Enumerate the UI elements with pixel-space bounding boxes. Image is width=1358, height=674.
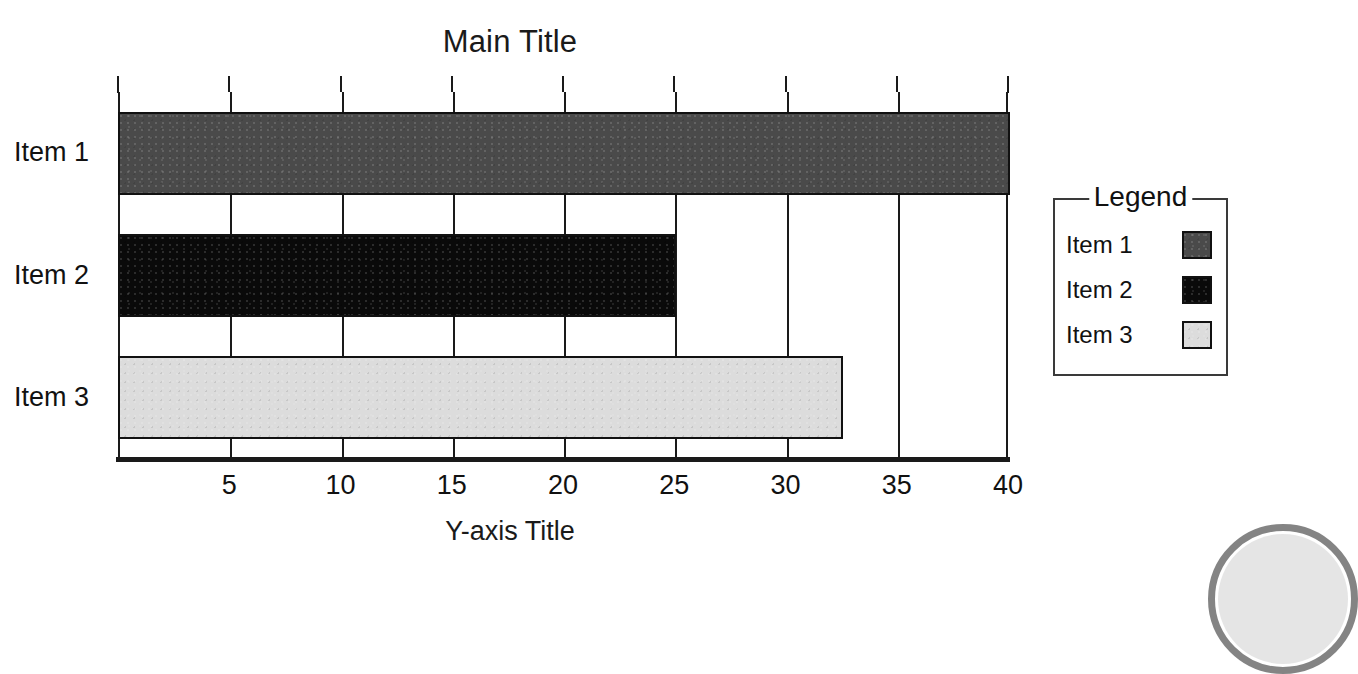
legend-item[interactable]: Item 1 — [1055, 222, 1226, 267]
tick-mark — [340, 76, 342, 93]
x-tick-label: 35 — [862, 470, 932, 501]
chart-title: Main Title — [0, 24, 1020, 60]
tick-mark — [228, 76, 230, 93]
x-axis-line — [116, 457, 1010, 462]
x-tick-label: 40 — [973, 470, 1043, 501]
legend-item-label: Item 3 — [1066, 321, 1133, 349]
legend-item-label: Item 1 — [1066, 231, 1133, 259]
tick-mark — [673, 76, 675, 93]
x-tick-label: 5 — [194, 470, 264, 501]
legend: Legend Item 1Item 2Item 3 — [1053, 198, 1228, 376]
legend-title: Legend — [1089, 181, 1192, 213]
tick-mark — [117, 76, 119, 93]
tick-mark — [451, 76, 453, 93]
tick-mark — [896, 76, 898, 93]
top-tick-marks — [118, 76, 1008, 93]
legend-swatch-texture — [1184, 233, 1210, 257]
bar — [118, 112, 1010, 195]
bar-texture — [120, 114, 1008, 193]
value-axis-title: Y-axis Title — [0, 515, 1020, 547]
legend-swatch-texture — [1184, 323, 1210, 347]
bars-layer — [120, 92, 1006, 459]
legend-item-label: Item 2 — [1066, 276, 1133, 304]
legend-swatch-texture — [1184, 278, 1210, 302]
legend-swatch — [1182, 321, 1212, 349]
tick-mark — [1007, 76, 1009, 93]
legend-items: Item 1Item 2Item 3 — [1055, 222, 1226, 357]
bar — [118, 356, 843, 439]
category-label: Item 2 — [14, 260, 110, 291]
legend-swatch — [1182, 276, 1212, 304]
bar-texture — [120, 236, 674, 315]
tick-mark — [562, 76, 564, 93]
bar-texture — [120, 358, 841, 437]
tick-mark — [785, 76, 787, 93]
scan-artifact-arc — [1208, 524, 1358, 674]
x-tick-label: 20 — [528, 470, 598, 501]
legend-item[interactable]: Item 2 — [1055, 267, 1226, 312]
x-tick-label: 15 — [417, 470, 487, 501]
legend-item[interactable]: Item 3 — [1055, 312, 1226, 357]
category-label: Item 1 — [14, 137, 110, 168]
x-tick-label: 10 — [306, 470, 376, 501]
plot-area — [118, 92, 1008, 459]
category-label: Item 3 — [14, 382, 110, 413]
bar — [118, 234, 676, 317]
x-tick-label: 25 — [639, 470, 709, 501]
legend-swatch — [1182, 231, 1212, 259]
x-tick-label: 30 — [751, 470, 821, 501]
